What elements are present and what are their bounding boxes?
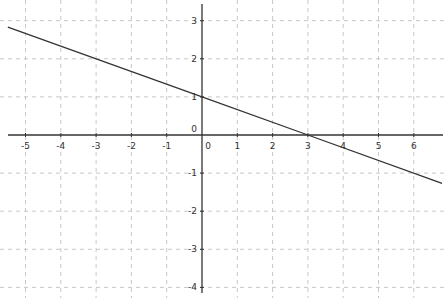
line-series bbox=[8, 27, 442, 183]
x-tick-label: 1 bbox=[234, 141, 240, 151]
y-tick-label: 3 bbox=[191, 16, 197, 26]
x-tick-label: 4 bbox=[340, 141, 346, 151]
y-tick-label: -2 bbox=[188, 206, 197, 216]
y-tick-label: 0 bbox=[191, 124, 197, 134]
y-tick-label: -4 bbox=[188, 282, 197, 292]
x-tick-label: -3 bbox=[92, 141, 101, 151]
x-tick-label: 0 bbox=[205, 141, 211, 151]
plot-series bbox=[8, 27, 442, 183]
x-tick-label: -5 bbox=[21, 141, 30, 151]
y-tick-label: -3 bbox=[188, 244, 197, 254]
x-tick-label: 6 bbox=[411, 141, 417, 151]
x-tick-label: -4 bbox=[56, 141, 65, 151]
x-tick-label: 2 bbox=[270, 141, 276, 151]
y-tick-label: 2 bbox=[191, 54, 197, 64]
tick-labels: -5-4-3-2-10123456-4-3-2-10123 bbox=[21, 16, 417, 293]
x-tick-label: -2 bbox=[127, 141, 136, 151]
x-tick-label: 5 bbox=[376, 141, 382, 151]
x-tick-label: 3 bbox=[305, 141, 311, 151]
y-tick-label: -1 bbox=[188, 168, 197, 178]
graph-canvas: -5-4-3-2-10123456-4-3-2-10123 bbox=[0, 0, 447, 298]
x-tick-label: -1 bbox=[162, 141, 171, 151]
